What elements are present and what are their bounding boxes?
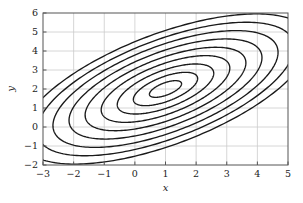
y-tick-label: 1 [32, 102, 38, 113]
plot-canvas: −3−2−1012345 −2−10123456 x y [0, 0, 303, 203]
y-tick-label: 5 [32, 26, 38, 37]
x-tick-label: 0 [132, 168, 138, 179]
y-tick-label: −1 [24, 140, 38, 151]
x-tick-label: 1 [162, 168, 168, 179]
y-tick-label: 2 [32, 83, 38, 94]
y-tick-label: 4 [32, 45, 38, 56]
y-tick-label: −2 [24, 159, 38, 170]
y-axis-label: y [5, 86, 16, 93]
x-tick-label: 2 [193, 168, 199, 179]
x-tick-label: 5 [285, 168, 291, 179]
y-tick-label: 3 [32, 64, 38, 75]
x-tick-label: −2 [67, 168, 81, 179]
x-tick-label: 4 [254, 168, 260, 179]
x-tick-label: −3 [36, 168, 50, 179]
x-axis-label: x [163, 182, 169, 193]
contour-plot-figure: −3−2−1012345 −2−10123456 x y [0, 0, 303, 203]
y-tick-label: 0 [32, 121, 38, 132]
y-tick-label: 6 [32, 7, 38, 18]
x-tick-label: 3 [224, 168, 230, 179]
x-tick-label: −1 [97, 168, 111, 179]
